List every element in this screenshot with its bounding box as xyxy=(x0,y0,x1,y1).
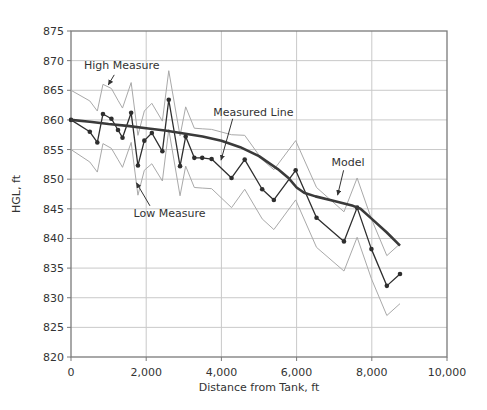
annotation-model: Model xyxy=(332,156,365,195)
data-point-marker xyxy=(342,239,347,244)
data-point-marker xyxy=(120,135,125,140)
data-point-marker xyxy=(150,131,155,136)
annotation-label: Model xyxy=(332,156,365,169)
y-axis-title: HGL, ft xyxy=(10,174,23,213)
data-point-marker xyxy=(200,156,205,161)
y-tick-label: 875 xyxy=(43,25,64,38)
y-tick-label: 820 xyxy=(43,351,64,364)
data-point-marker xyxy=(129,110,134,115)
data-point-marker xyxy=(192,156,197,161)
y-tick-label: 850 xyxy=(43,173,64,186)
data-point-marker xyxy=(116,128,121,133)
data-point-marker xyxy=(88,129,93,134)
annotation-low-measure: Low Measure xyxy=(134,183,206,220)
y-tick-label: 860 xyxy=(43,114,64,127)
x-tick-label: 0 xyxy=(68,366,75,379)
y-tick-label: 830 xyxy=(43,292,64,305)
hgl-vs-distance-chart: 02,0004,0006,0008,00010,0008208258308358… xyxy=(0,0,487,410)
x-axis-title: Distance from Tank, ft xyxy=(199,381,320,394)
data-point-marker xyxy=(398,272,403,277)
series-measured-line xyxy=(71,100,400,286)
annotation-arrow xyxy=(108,75,114,85)
y-axis-tick-labels: 820825830835840845850855860865870875 xyxy=(43,25,64,364)
annotation-arrow xyxy=(338,170,344,195)
x-tick-label: 4,000 xyxy=(206,366,238,379)
data-point-marker xyxy=(166,97,171,102)
y-tick-label: 865 xyxy=(43,84,64,97)
data-point-marker xyxy=(369,247,374,252)
y-tick-label: 855 xyxy=(43,144,64,157)
x-axis-tick-labels: 02,0004,0006,0008,00010,000 xyxy=(68,366,467,379)
axis-ticks xyxy=(67,31,447,361)
annotation-label: Measured Line xyxy=(213,106,293,119)
data-point-marker xyxy=(160,149,165,154)
annotation-high-measure: High Measure xyxy=(84,59,160,85)
y-tick-label: 825 xyxy=(43,321,64,334)
data-point-marker xyxy=(136,163,141,168)
series-model xyxy=(71,120,400,246)
data-point-marker xyxy=(260,187,265,192)
data-point-marker xyxy=(314,215,319,220)
data-point-marker xyxy=(101,112,106,117)
y-tick-label: 840 xyxy=(43,232,64,245)
data-point-marker xyxy=(209,157,214,162)
y-tick-label: 845 xyxy=(43,203,64,216)
annotation-label: Low Measure xyxy=(134,207,206,220)
plot-gridlines xyxy=(71,31,447,357)
data-point-marker xyxy=(109,116,114,121)
data-point-marker xyxy=(95,140,100,145)
x-tick-label: 6,000 xyxy=(281,366,313,379)
annotation-label: High Measure xyxy=(84,59,160,72)
data-point-marker xyxy=(178,164,183,169)
data-point-marker xyxy=(242,157,247,162)
annotation-arrow xyxy=(221,119,233,160)
x-tick-label: 8,000 xyxy=(356,366,388,379)
plot-border xyxy=(71,31,447,357)
y-tick-label: 870 xyxy=(43,55,64,68)
data-point-marker xyxy=(385,284,390,289)
x-tick-label: 10,000 xyxy=(428,366,467,379)
x-tick-label: 2,000 xyxy=(130,366,162,379)
data-point-marker xyxy=(293,168,298,173)
data-point-marker xyxy=(272,198,277,203)
y-tick-label: 835 xyxy=(43,262,64,275)
chart-canvas: 02,0004,0006,0008,00010,0008208258308358… xyxy=(0,0,487,410)
data-point-marker xyxy=(142,138,147,143)
data-point-marker xyxy=(229,176,234,181)
